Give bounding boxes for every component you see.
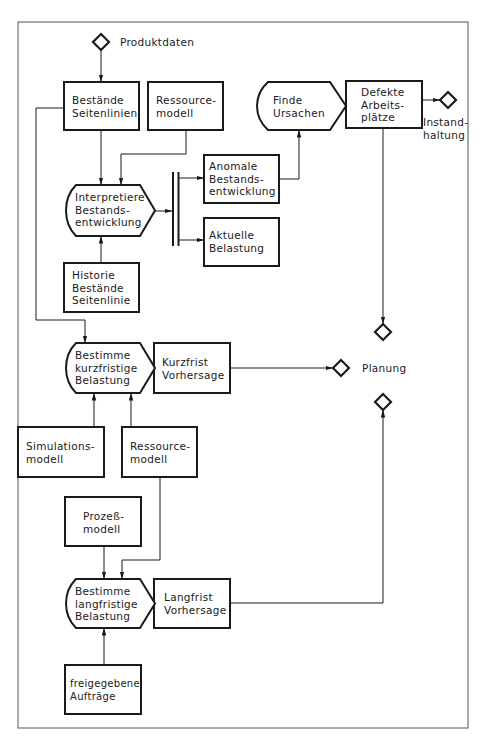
aktuelle-text: Aktuelle Belastung bbox=[209, 229, 264, 254]
kurzfrist-vorhersage-text: Kurzfrist Vorhersage bbox=[162, 356, 224, 381]
produktdaten-label: Produktdaten bbox=[120, 36, 194, 49]
freigegebene-text: freigegebene Aufträge bbox=[70, 678, 140, 703]
edge-anomale-finde bbox=[279, 130, 299, 179]
instandhaltung-label: Instand- haltung bbox=[423, 116, 468, 141]
planung-bottom-diamond-icon bbox=[375, 394, 391, 410]
simulationsmodell-text: Simulations- modell bbox=[26, 440, 95, 465]
ressourcemodell-top-text: Ressource- modell bbox=[156, 94, 216, 119]
planung-label: Planung bbox=[362, 362, 406, 375]
planung-top-diamond-icon bbox=[375, 324, 391, 340]
langfrist-vorhersage-text: Langfrist Vorhersage bbox=[164, 591, 226, 616]
sync-bar bbox=[173, 172, 179, 246]
finde-ursachen-text: Finde Ursachen bbox=[273, 94, 325, 119]
langfristig-text: Bestimme langfristige Belastung bbox=[75, 585, 138, 623]
instandhaltung-diamond-icon bbox=[440, 92, 456, 108]
anomale-text: Anomale Bestands- entwicklung bbox=[209, 160, 276, 198]
produktdaten-diamond-icon bbox=[93, 34, 109, 50]
prozessmodell-text: Prozeß- modell bbox=[83, 510, 124, 535]
kurzfristig-text: Bestimme kurzfristige Belastung bbox=[75, 349, 137, 387]
ressourcemodell-mid-text: Ressource- modell bbox=[130, 440, 190, 465]
bestaende-seitenlinien-text: Bestände Seitenlinien bbox=[72, 94, 137, 119]
interpretiere-text: Interpretiere Bestands- entwicklung bbox=[75, 191, 145, 229]
historie-text: Historie Bestände Seitenlinie bbox=[72, 269, 130, 307]
edge-ressource-interpretiere bbox=[121, 130, 186, 185]
edge-langfrist-planung bbox=[230, 410, 383, 603]
planung-left-diamond-icon bbox=[333, 360, 349, 376]
defekte-text: Defekte Arbeits- plätze bbox=[361, 86, 404, 124]
